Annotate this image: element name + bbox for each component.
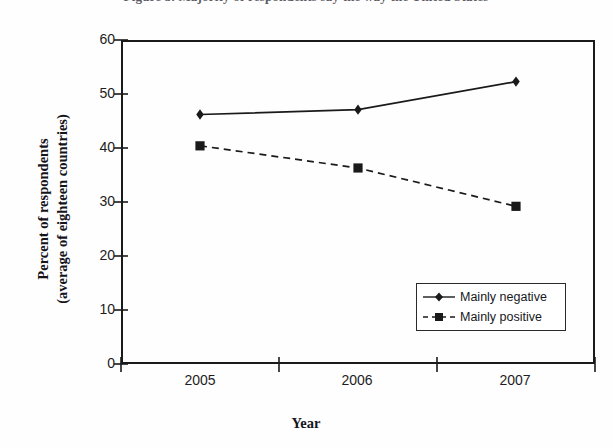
y-axis-title: Percent of respondents (average of eight… — [34, 49, 72, 369]
legend-item-mainly-negative[interactable]: Mainly negative — [422, 287, 560, 307]
y-tick-label-40: 40 — [75, 139, 115, 155]
chart-legend[interactable]: Mainly negative Mainly positive — [416, 283, 566, 331]
legend-swatch-square — [422, 310, 456, 324]
y-tick-label-50: 50 — [75, 85, 115, 101]
y-tick-label-30: 30 — [75, 193, 115, 209]
chart-figure: Figure 3. Majority of respondents say th… — [0, 0, 612, 447]
y-tick-label-0: 0 — [75, 355, 115, 371]
y-axis-title-line2: (average of eighteen countries) — [53, 49, 72, 369]
y-tick-label-10: 10 — [75, 301, 115, 317]
legend-item-mainly-positive[interactable]: Mainly positive — [422, 307, 560, 327]
y-axis-title-line1: Percent of respondents — [35, 138, 51, 279]
legend-swatch-diamond — [422, 290, 456, 304]
x-axis-title: Year — [0, 415, 612, 432]
x-tick-label-2007: 2007 — [475, 372, 555, 388]
x-tick-label-2006: 2006 — [317, 372, 397, 388]
y-tick-label-20: 20 — [75, 247, 115, 263]
legend-label-mainly-negative: Mainly negative — [460, 290, 547, 304]
y-tick-label-60: 60 — [75, 31, 115, 47]
figure-title-cutoff: Figure 3. Majority of respondents say th… — [0, 0, 612, 5]
x-tick-label-2005: 2005 — [160, 372, 240, 388]
legend-label-mainly-positive: Mainly positive — [460, 310, 542, 324]
